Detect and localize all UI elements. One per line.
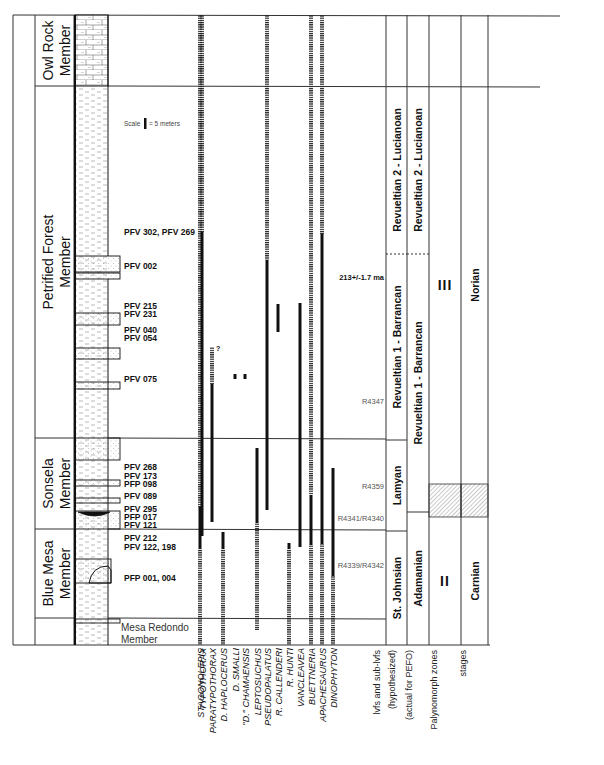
- sandstone-ledge: [75, 256, 120, 272]
- member-boundary-right: [108, 618, 386, 619]
- sandstone-ledge: [75, 382, 120, 389]
- solid-range: [211, 384, 214, 522]
- dashed-range: [309, 15, 313, 495]
- sandstone-ledge: [75, 498, 120, 503]
- member-label-petrified-forest: Petrified ForestMember: [40, 214, 73, 309]
- member-label-sonsela: SonselaMember: [40, 457, 73, 509]
- member-label-line: Member: [57, 24, 73, 76]
- sandstone-ledge: [75, 480, 120, 486]
- locality-label: PFV 231: [124, 309, 157, 319]
- scale-note: Scale= 5 meters: [124, 118, 181, 129]
- limestone-bed: [75, 15, 108, 86]
- taxon-range-r-hunti: [287, 543, 291, 645]
- solid-range: [321, 234, 324, 544]
- locality-label: PFV 002: [124, 261, 157, 271]
- member-label-line: Member: [57, 547, 73, 599]
- zone-label: Carnian: [469, 561, 481, 600]
- dashed-range: [331, 576, 335, 645]
- taxon-name: PSEUDOPALATUS: [263, 648, 273, 726]
- dashed-range: [210, 347, 214, 384]
- column-header: stages: [458, 650, 468, 677]
- column-header: (hypothesized): [387, 650, 397, 709]
- locality-label: PFP 001, 004: [124, 573, 176, 583]
- scale-suffix: = 5 meters: [149, 120, 181, 127]
- dashed-range: [287, 549, 291, 645]
- zone-label: Revueltian 2 - Lucianoan: [391, 108, 403, 232]
- solid-range: [222, 532, 225, 549]
- sandstone-ledge: [75, 438, 120, 460]
- taxon-range-r-callenderi: [277, 304, 280, 332]
- date-label: 213+/-1.7 ma: [339, 273, 385, 282]
- taxon-range-d-haplocerus: [221, 532, 225, 645]
- column-headers: lvfs and sub-lvfs(hypothesized)(actual f…: [372, 650, 468, 730]
- point-occurrence: [234, 374, 237, 379]
- taxon-range-apachesaurus: [320, 15, 324, 645]
- taxon-range-buettneria: [309, 15, 313, 645]
- solid-range: [266, 260, 269, 510]
- zone-label: Revueltian 1 - Barrancan: [391, 285, 403, 408]
- sandstone-ledge: [75, 559, 111, 583]
- taxon-name: "D." CHAMAENSIS: [241, 648, 251, 725]
- dashed-range: [320, 15, 324, 234]
- member-label-line: Member: [57, 457, 73, 509]
- date-label: R4339/R4342: [338, 561, 384, 570]
- dashed-range: [221, 549, 225, 645]
- solid-range: [310, 495, 313, 545]
- date-label: R4341/R4340: [338, 514, 384, 523]
- locality-label: PFV 302, PFV 269: [124, 227, 195, 237]
- taxon-range-leptosuchus: [255, 448, 259, 630]
- column-header: (actual for PEFO): [404, 650, 414, 720]
- biozone-columns: Revueltian 2 - LucianoanRevueltian 1 - B…: [386, 15, 488, 645]
- locality-label: PFV 054: [124, 333, 157, 343]
- taxon-name: D. HAPLOCERUS: [219, 648, 229, 722]
- locality-label: PFP 098: [124, 479, 157, 489]
- radiometric-dates: 213+/-1.7 maR4347R4359R4341/R4340R4339/R…: [338, 273, 385, 570]
- taxon-name: VANCLEAVEA: [296, 648, 306, 707]
- taxon-name: LEPTOSUCHUS: [253, 648, 263, 715]
- taxon-name: R. HUNTI: [285, 648, 295, 687]
- zone-label: Revueltian 2 - Lucianoan: [412, 108, 424, 232]
- zone-label: Norian: [469, 268, 481, 301]
- mesa-redondo-label: Member: [121, 634, 158, 645]
- dashed-range: [309, 545, 313, 645]
- date-label: R4359: [362, 482, 384, 491]
- sandstone-ledge: [75, 619, 120, 623]
- locality-label: PFV 122, 198: [124, 542, 176, 552]
- dashed-range: [200, 15, 204, 232]
- stratigraphic-chart: Owl RockMemberPetrified ForestMemberSons…: [0, 0, 604, 765]
- taxon-range-d-smalli: [234, 374, 237, 379]
- member-label-line: Petrified Forest: [40, 214, 56, 309]
- figure-caption-fragment: [0, 754, 604, 765]
- zone-label: St. Johnsian: [391, 557, 403, 619]
- taxon-ranges: STAGONOLEPISTYPOTHORAXPARATYPOTHORAXD. H…: [196, 15, 339, 733]
- taxon-range-typothorax: [200, 15, 204, 536]
- locality-label: PFV 121: [124, 520, 157, 530]
- dashed-range: [255, 523, 259, 630]
- point-occurrence: [244, 374, 247, 379]
- dashed-range: [265, 15, 269, 260]
- palynomorph-zone-label: II: [440, 573, 450, 589]
- solid-range: [299, 303, 302, 547]
- zone-label: Revueltian 1 - Barrancan: [412, 321, 424, 444]
- scale-bar-icon: [144, 118, 147, 129]
- member-label-owl-rock: Owl RockMember: [40, 20, 73, 81]
- lithologic-column: [75, 15, 120, 645]
- taxon-name: DINOPHYTON: [329, 648, 339, 708]
- taxon-name: R. CALLENDERI: [274, 648, 284, 717]
- taxon-range-dinophyton: [331, 468, 335, 645]
- scale-prefix: Scale: [124, 120, 141, 127]
- member-label-blue-mesa: Blue MesaMember: [40, 540, 73, 606]
- member-label-line: Blue Mesa: [40, 540, 56, 606]
- mesa-redondo-label: Mesa Redondo: [121, 622, 189, 633]
- uncertain-zone-hatch: [461, 484, 488, 517]
- locality-label: PFV 075: [124, 374, 157, 384]
- uncertain-zone-hatch: [429, 484, 461, 517]
- taxon-range--d-chamaensis: [244, 374, 247, 379]
- taxon-range-pseudopalatus: [265, 15, 269, 510]
- taxon-range-vancleavea: [299, 303, 302, 547]
- dashed-range: [320, 544, 324, 645]
- taxon-name: APACHESAURUS: [318, 648, 328, 723]
- palynomorph-zone-label: III: [438, 277, 453, 293]
- taxon-name: BUETTNERIA: [307, 648, 317, 705]
- solid-range: [332, 468, 335, 576]
